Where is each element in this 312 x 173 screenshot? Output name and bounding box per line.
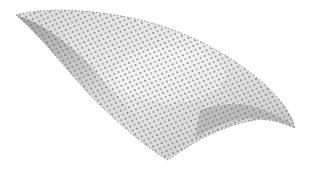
mesh-render	[0, 0, 312, 173]
mesh-surface	[0, 0, 312, 173]
